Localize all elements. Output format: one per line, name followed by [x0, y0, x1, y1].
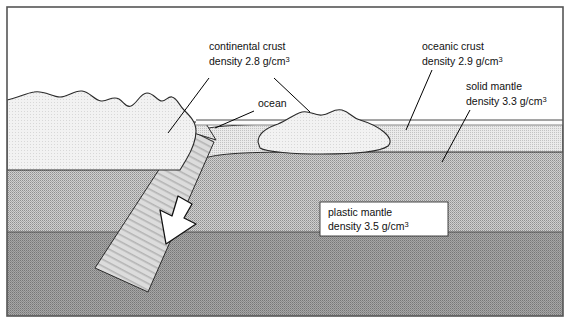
- figure-canvas: continental crust density 2.8 g/cm3 ocea…: [0, 0, 570, 323]
- oceanic-crust-line1: oceanic crust: [422, 40, 484, 52]
- layer-continental-crust: [7, 91, 196, 170]
- label-ocean: ocean: [258, 97, 287, 109]
- oceanic-crust-line2: density 2.9 g/cm3: [422, 55, 503, 68]
- ocean-label-text: ocean: [258, 97, 287, 109]
- plastic-mantle-line2: density 3.5 g/cm3: [328, 220, 409, 233]
- cross-section-diagram: continental crust density 2.8 g/cm3 ocea…: [0, 0, 570, 323]
- layer-plastic-mantle-lower: [7, 232, 563, 316]
- solid-mantle-line1: solid mantle: [466, 80, 522, 92]
- layer-ocean-water: [196, 120, 563, 125]
- plastic-mantle-line1: plastic mantle: [328, 206, 392, 218]
- solid-mantle-line2: density 3.3 g/cm3: [466, 95, 547, 108]
- label-plastic-mantle: plastic mantle density 3.5 g/cm3: [320, 202, 448, 236]
- continental-crust-line2: density 2.8 g/cm3: [209, 55, 290, 68]
- continental-crust-line1: continental crust: [209, 40, 286, 52]
